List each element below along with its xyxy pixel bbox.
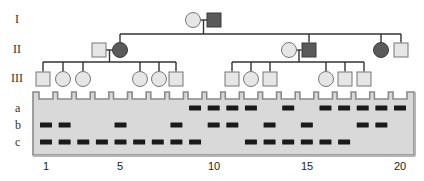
gel-band-c — [59, 140, 71, 145]
gel-row-label-a: a — [15, 101, 20, 116]
gel-band-b — [208, 123, 220, 128]
gel-row-label-b: b — [15, 118, 21, 133]
unaffected-female-symbol — [244, 72, 259, 87]
gel-band-c — [170, 140, 182, 145]
unaffected-female-symbol — [56, 72, 71, 87]
gel-band-c — [189, 140, 201, 145]
unaffected-male-symbol — [225, 72, 239, 86]
gel-band-a — [282, 106, 294, 111]
gel-band-c — [264, 140, 276, 145]
unaffected-male-symbol — [338, 72, 352, 86]
gel-band-a — [245, 106, 257, 111]
gel-row-label-c: c — [15, 135, 20, 150]
gel-band-a — [394, 106, 406, 111]
gel-band-a — [208, 106, 220, 111]
gel-band-c — [301, 140, 313, 145]
gel-band-a — [189, 106, 201, 111]
unaffected-male-symbol — [36, 72, 50, 86]
gel-band-b — [375, 123, 387, 128]
affected-female-symbol — [374, 43, 389, 58]
unaffected-female-symbol — [76, 72, 91, 87]
gel-band-b — [357, 123, 369, 128]
gel-band-c — [338, 140, 350, 145]
gel-band-c — [319, 140, 331, 145]
gel-band-a — [319, 106, 331, 111]
gel-band-a — [338, 106, 350, 111]
gel-band-c — [115, 140, 127, 145]
unaffected-male-symbol — [92, 43, 106, 57]
lane-number-5: 5 — [117, 160, 123, 172]
unaffected-female-symbol — [319, 72, 334, 87]
affected-male-symbol — [207, 13, 221, 27]
gel-band-b — [264, 123, 276, 128]
unaffected-female-symbol — [282, 43, 297, 58]
gel-band-b — [40, 123, 52, 128]
unaffected-male-symbol — [357, 72, 371, 86]
lane-number-10: 10 — [208, 160, 220, 172]
figure-canvas — [0, 0, 424, 181]
unaffected-male-symbol — [169, 72, 183, 86]
gel-band-b — [59, 123, 71, 128]
gel-band-b — [301, 123, 313, 128]
gel-band-c — [40, 140, 52, 145]
gel-band-b — [170, 123, 182, 128]
unaffected-female-symbol — [152, 72, 167, 87]
gel-band-a — [226, 106, 238, 111]
gel-band-a — [357, 106, 369, 111]
gel-band-b — [226, 123, 238, 128]
gel-band-c — [152, 140, 164, 145]
lane-number-1: 1 — [43, 160, 49, 172]
gel-band-b — [115, 123, 127, 128]
gel-band-c — [133, 140, 145, 145]
lane-number-20: 20 — [394, 160, 406, 172]
gel-band-c — [77, 140, 89, 145]
gel-band-c — [96, 140, 108, 145]
unaffected-female-symbol — [133, 72, 148, 87]
generation-label-iii: III — [11, 71, 23, 86]
pedigree-gel-figure: I II III a b c 1 5 10 15 20 — [0, 0, 424, 181]
unaffected-male-symbol — [394, 43, 408, 57]
unaffected-male-symbol — [263, 72, 277, 86]
gel-band-c — [245, 140, 257, 145]
affected-male-symbol — [302, 43, 316, 57]
lane-number-15: 15 — [301, 160, 313, 172]
gel-band-c — [282, 140, 294, 145]
generation-label-ii: II — [13, 42, 21, 57]
unaffected-female-symbol — [186, 13, 201, 28]
affected-female-symbol — [113, 43, 128, 58]
generation-label-i: I — [15, 12, 19, 27]
gel-band-a — [375, 106, 387, 111]
